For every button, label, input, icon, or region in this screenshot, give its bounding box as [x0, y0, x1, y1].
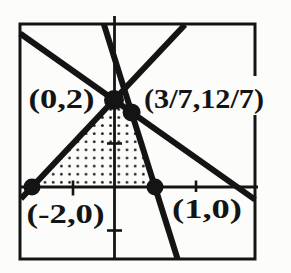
vertex-dot-2: [123, 103, 141, 121]
vertex-dot-3: [147, 179, 164, 196]
vertex-label-2: (3/7,12/7): [144, 84, 264, 114]
vertex-dot-1: [104, 90, 124, 110]
vertex-label-3: (1,0): [172, 194, 242, 224]
vertex-label-1: (0,2): [29, 84, 95, 114]
vertex-label-0: (-2,0): [27, 199, 105, 229]
vertex-dot-0: [24, 179, 41, 196]
feasible-region-plot: (-2,0)(0,2)(3/7,12/7)(1,0): [0, 0, 291, 273]
graph-figure: (-2,0)(0,2)(3/7,12/7)(1,0): [0, 0, 291, 273]
